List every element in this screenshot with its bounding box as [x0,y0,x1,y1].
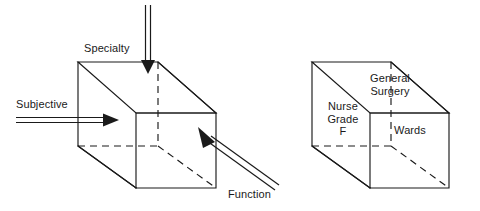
function-arrow [198,127,279,190]
cube-diagram-svg [0,0,480,211]
left-cube-hidden-diagonal-edge [158,146,216,188]
label-specialty: Specialty [84,42,130,55]
label-wards: Wards [387,124,433,137]
subjective-arrow [16,114,119,127]
label-nurse-grade: Nurse Grade F [317,100,369,138]
left-cube-left-bottom-edge [78,146,136,188]
left-cube-top-right-edge [158,62,216,113]
left-cube-left-face [78,62,136,188]
diagram-canvas: Specialty Subjective Function Nurse Grad… [0,0,480,211]
label-general-surgery: General Surgery [357,72,423,97]
right-cube-left-bottom-edge [312,146,370,188]
right-cube-hidden-diagonal-edge [391,146,449,188]
label-function: Function [228,188,271,201]
left-cube-front-face [136,113,216,188]
label-subjective: Subjective [16,98,68,111]
specialty-arrow [141,5,155,74]
